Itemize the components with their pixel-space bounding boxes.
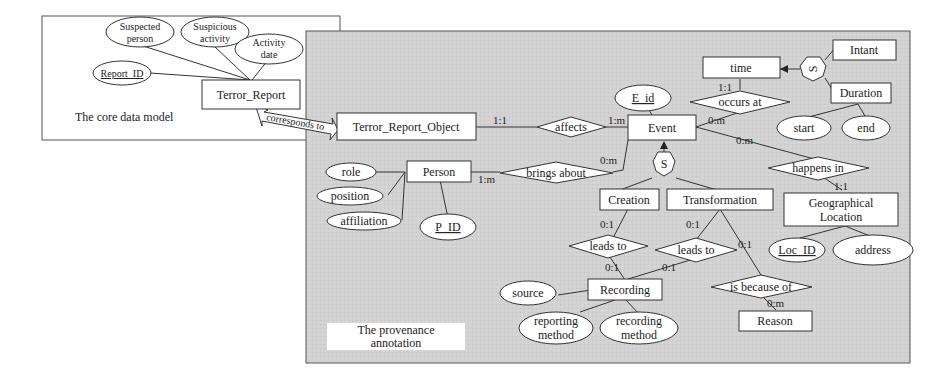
svg-text:0:m: 0:m (708, 114, 726, 126)
entity-recording: Recording (588, 279, 662, 300)
svg-text:address: address (855, 243, 891, 257)
svg-text:Person: Person (423, 165, 456, 179)
attr-activity-date: Activity date (235, 34, 303, 64)
attr-end: end (842, 116, 890, 140)
svg-text:start: start (794, 121, 815, 135)
svg-text:date: date (261, 49, 278, 60)
entity-terror-report: Terror_Report (202, 80, 300, 109)
svg-text:happens in: happens in (792, 161, 844, 175)
svg-text:method: method (538, 328, 574, 342)
svg-text:Location: Location (820, 210, 863, 224)
svg-text:source: source (512, 286, 543, 300)
attr-role: role (326, 163, 376, 181)
svg-text:S: S (806, 66, 820, 73)
svg-text:1:1: 1:1 (834, 180, 848, 192)
svg-text:1:1: 1:1 (718, 81, 732, 93)
entity-transformation: Transformation (667, 189, 773, 210)
attr-loc-id: Loc_ID (769, 238, 825, 262)
attr-suspected-person: Suspected person (106, 17, 174, 47)
svg-text:leads to: leads to (678, 243, 715, 257)
svg-text:E_id: E_id (632, 91, 655, 105)
entity-event: Event (628, 115, 696, 140)
entity-terror-report-object: Terror_Report_Object (337, 113, 476, 140)
svg-text:Transformation: Transformation (683, 193, 757, 207)
svg-text:Activity: Activity (253, 37, 286, 48)
svg-text:Event: Event (648, 121, 677, 135)
attr-position: position (317, 187, 383, 205)
svg-text:time: time (730, 61, 751, 75)
svg-text:Geographical: Geographical (809, 196, 874, 210)
svg-text:affiliation: affiliation (340, 214, 387, 228)
svg-text:end: end (857, 121, 874, 135)
svg-text:Suspected: Suspected (120, 21, 161, 32)
svg-text:recording: recording (616, 314, 662, 328)
attr-address: address (833, 235, 913, 265)
svg-text:1:1: 1:1 (493, 114, 507, 126)
svg-text:Suspicious: Suspicious (193, 21, 236, 32)
attr-p-id: P_ID (420, 214, 476, 240)
svg-text:Duration: Duration (840, 86, 883, 100)
attr-recording-method: recording method (600, 312, 678, 344)
svg-text:0:m: 0:m (767, 297, 785, 309)
entity-duration: Duration (831, 83, 891, 103)
svg-text:Creation: Creation (608, 193, 649, 207)
entity-creation: Creation (600, 189, 659, 210)
svg-text:Reason: Reason (757, 314, 792, 328)
svg-text:P_ID: P_ID (435, 220, 461, 234)
entity-intant: Intant (833, 40, 896, 60)
svg-text:The provenance: The provenance (358, 323, 435, 337)
svg-text:affects: affects (555, 120, 587, 134)
svg-text:Loc_ID: Loc_ID (778, 243, 816, 257)
svg-text:0:1: 0:1 (600, 218, 614, 230)
core-caption: The core data model (75, 110, 174, 124)
svg-text:is because of: is because of (730, 280, 792, 294)
svg-text:activity: activity (200, 33, 230, 44)
svg-text:Intant: Intant (850, 43, 879, 57)
attr-affiliation: affiliation (327, 212, 401, 230)
svg-text:0:m: 0:m (736, 134, 754, 146)
svg-text:method: method (621, 328, 657, 342)
svg-text:annotation: annotation (371, 336, 422, 350)
svg-text:1:m: 1:m (608, 114, 626, 126)
entity-geographical-location: Geographical Location (784, 193, 898, 226)
attr-report-id: Report_ID (93, 61, 151, 85)
svg-text:person: person (127, 33, 154, 44)
svg-text:1:m: 1:m (478, 173, 496, 185)
svg-text:Recording: Recording (600, 283, 650, 297)
svg-text:Terror_Report: Terror_Report (217, 88, 286, 102)
svg-text:position: position (331, 189, 370, 203)
svg-text:Report_ID: Report_ID (101, 68, 144, 79)
attr-reporting-method: reporting method (519, 312, 593, 344)
entity-time: time (703, 57, 780, 78)
svg-text:occurs at: occurs at (719, 95, 763, 109)
svg-text:0:1: 0:1 (605, 261, 619, 273)
svg-text:0:1: 0:1 (738, 238, 752, 250)
svg-text:brings about: brings about (526, 166, 586, 180)
attr-source: source (500, 281, 556, 305)
entity-reason: Reason (739, 311, 812, 331)
svg-text:0:1: 0:1 (662, 261, 676, 273)
er-diagram: corresponds to Terror_Report Suspected p… (0, 0, 948, 382)
attr-e-id: E_id (615, 85, 671, 111)
svg-text:reporting: reporting (534, 314, 578, 328)
svg-text:0:m: 0:m (600, 154, 618, 166)
provenance-caption: The provenance annotation (327, 323, 465, 350)
svg-text:role: role (342, 165, 361, 179)
svg-text:leads to: leads to (590, 239, 627, 253)
svg-text:0:1: 0:1 (686, 218, 700, 230)
svg-text:S: S (661, 157, 668, 171)
entity-person: Person (407, 161, 471, 182)
svg-text:Terror_Report_Object: Terror_Report_Object (353, 120, 460, 134)
attr-start: start (777, 116, 831, 140)
